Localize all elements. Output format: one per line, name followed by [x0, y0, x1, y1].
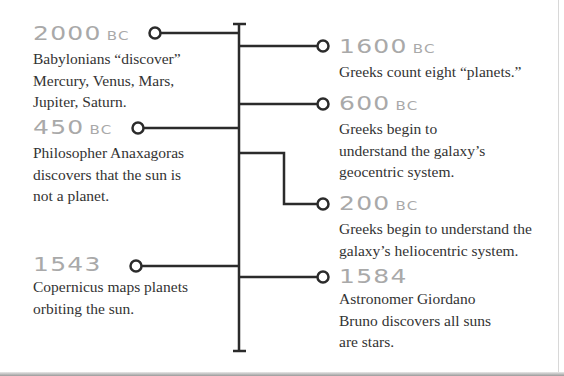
page-bottom-shadow [0, 372, 564, 376]
event-description: Babylonians “discover” Mercury, Venus, M… [33, 48, 213, 113]
event-description: Greeks begin to understand the galaxy’s … [339, 218, 557, 261]
timeline-page: 2000BC Babylonians “discover” Mercury, V… [0, 0, 559, 373]
event-450-bc: 450BC Philosopher Anaxagoras discovers t… [33, 117, 223, 207]
event-1543: 1543 Copernicus maps planets orbiting th… [33, 254, 223, 319]
event-600-bc: 600BC Greeks begin to understand the gal… [339, 93, 554, 183]
event-description: Greeks count eight “planets.” [339, 61, 554, 83]
event-1600-bc: 1600BC Greeks count eight “planets.” [339, 36, 554, 83]
event-year: 1584 [339, 266, 564, 286]
event-description: Copernicus maps planets orbiting the sun… [33, 276, 223, 319]
event-year: 450BC [33, 117, 271, 140]
event-year: 200BC [339, 193, 564, 216]
event-200-bc: 200BC Greeks begin to understand the gal… [339, 193, 557, 261]
event-1584: 1584 Astronomer Giordano Bruno discovers… [339, 266, 554, 353]
event-description: Greeks begin to understand the galaxy’s … [339, 118, 554, 183]
event-year: 1600BC [339, 36, 564, 59]
event-description: Philosopher Anaxagoras discovers that th… [33, 142, 223, 207]
event-2000-bc: 2000BC Babylonians “discover” Mercury, V… [33, 23, 213, 113]
node-circle-icon [318, 41, 329, 52]
event-description: Astronomer Giordano Bruno discovers all … [339, 288, 554, 353]
node-circle-icon [318, 272, 329, 283]
node-circle-icon [318, 99, 329, 110]
event-year: 1543 [33, 254, 271, 274]
node-circle-icon [318, 199, 329, 210]
event-year: 2000BC [33, 23, 258, 46]
event-year: 600BC [339, 93, 564, 116]
